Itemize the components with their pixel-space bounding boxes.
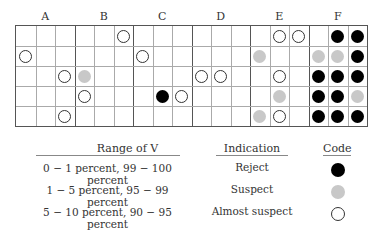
- grid-vline: [309, 26, 310, 126]
- reject-marker: [351, 70, 364, 83]
- column-label-a: A: [35, 10, 55, 23]
- grid-vline: [114, 26, 115, 126]
- grid-vline: [75, 26, 76, 126]
- grid-vline: [270, 26, 271, 126]
- grid-vline: [289, 26, 290, 126]
- almost-marker: [273, 30, 286, 43]
- column-label-d: D: [211, 10, 231, 23]
- code-header-text: Code: [323, 142, 352, 155]
- almost-marker: [195, 70, 208, 83]
- range-header-text: Range of V: [97, 142, 158, 155]
- grid-vline: [153, 26, 154, 126]
- grid-vline: [192, 26, 193, 126]
- control-chart-grid: [15, 25, 368, 127]
- grid-hline: [16, 66, 367, 67]
- almost-marker: [214, 70, 227, 83]
- reject-marker: [331, 30, 344, 43]
- reject-marker: [351, 50, 364, 63]
- almost-marker: [273, 110, 286, 123]
- column-label-f: F: [328, 10, 348, 23]
- almost-marker: [58, 110, 71, 123]
- grid-hline: [16, 106, 367, 107]
- column-label-e: E: [269, 10, 289, 23]
- legend-range: 5 − 10 percent, 90 − 95 percent: [30, 206, 185, 230]
- reject-marker: [351, 110, 364, 123]
- grid-vline: [55, 26, 56, 126]
- reject-marker: [331, 90, 344, 103]
- almost-marker: [292, 30, 305, 43]
- almost-marker: [19, 50, 32, 63]
- reject-marker: [351, 30, 364, 43]
- suspect-marker: [273, 90, 286, 103]
- grid-vline: [250, 26, 251, 126]
- grid-vline: [348, 26, 349, 126]
- grid-hline: [16, 46, 367, 47]
- almost-marker: [58, 70, 71, 83]
- grid-vline: [94, 26, 95, 126]
- almost-marker: [273, 70, 286, 83]
- reject-marker: [156, 90, 169, 103]
- column-label-b: B: [94, 10, 114, 23]
- grid-vline: [328, 26, 329, 126]
- grid-vline: [211, 26, 212, 126]
- grid-vline: [36, 26, 37, 126]
- indication-header-rule: [216, 155, 288, 156]
- legend-indication: Almost suspect: [206, 205, 298, 217]
- reject-marker: [312, 110, 325, 123]
- legend-indication: Suspect: [206, 183, 298, 195]
- legend-header-code: Code: [323, 142, 351, 155]
- reject-marker: [331, 70, 344, 83]
- reject-marker: [331, 110, 344, 123]
- almost-marker: [175, 90, 188, 103]
- grid-hline: [16, 86, 367, 87]
- suspect-marker: [78, 70, 91, 83]
- legend-header-indication: Indication: [216, 142, 288, 155]
- almost-marker: [78, 90, 91, 103]
- grid-vline: [231, 26, 232, 126]
- almost-marker: [117, 30, 130, 43]
- suspect-marker: [331, 50, 344, 63]
- legend-indication: Reject: [206, 161, 298, 173]
- almost-legend-icon: [331, 207, 345, 221]
- legend-range: 0 − 1 percent, 99 − 100 percent: [30, 162, 185, 186]
- column-label-c: C: [152, 10, 172, 23]
- suspect-marker: [351, 90, 364, 103]
- reject-legend-icon: [331, 163, 345, 177]
- indication-header-text: Indication: [224, 142, 280, 155]
- almost-marker: [136, 50, 149, 63]
- legend-range: 1 − 5 percent, 95 − 99 percent: [30, 184, 185, 208]
- grid-vline: [133, 26, 134, 126]
- grid-vline: [172, 26, 173, 126]
- suspect-marker: [312, 50, 325, 63]
- reject-marker: [312, 70, 325, 83]
- legend-header-range: Range of V: [75, 142, 180, 155]
- suspect-marker: [253, 110, 266, 123]
- suspect-marker: [253, 50, 266, 63]
- suspect-legend-icon: [331, 185, 345, 199]
- range-header-rule: [36, 155, 180, 156]
- reject-marker: [312, 90, 325, 103]
- code-header-rule: [323, 155, 351, 156]
